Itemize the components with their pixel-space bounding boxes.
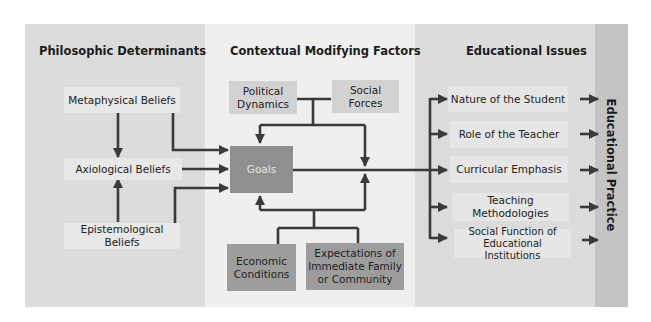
issue-role-of-teacher: Role of the Teacher [450,121,568,148]
metaphysical-beliefs-box: Metaphysical Beliefs [64,87,180,113]
issue-curricular-emphasis: Curricular Emphasis [450,156,568,183]
epistemological-beliefs-box: Epistemological Beliefs [64,223,180,249]
social-forces-box: Social Forces [332,80,399,113]
political-dynamics-box: Political Dynamics [229,81,297,114]
issue-social-function: Social Function of Educational Instituti… [454,229,571,258]
issue-nature-of-student: Nature of the Student [448,86,568,112]
goals-box: Goals [230,146,293,193]
axiological-beliefs-box: Axiological Beliefs [64,158,182,180]
economic-conditions-box: Economic Conditions [227,244,296,291]
issue-teaching-methodologies: Teaching Methodologies [452,193,569,221]
expectations-box: Expectations of Immediate Family or Comm… [306,243,404,290]
